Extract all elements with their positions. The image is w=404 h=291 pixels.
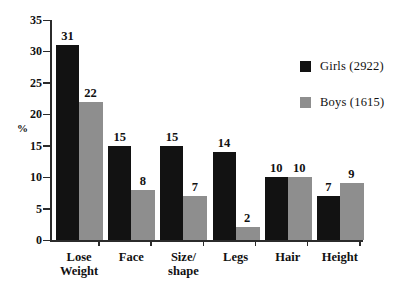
category-label-line1: Size/ [171,250,196,264]
y-axis-tick [43,20,51,22]
bar-value-label: 15 [105,131,135,144]
y-axis-title: % [17,122,28,134]
bar-value-label: 9 [336,168,366,181]
bar-value-label: 22 [76,87,106,100]
x-axis-line [50,240,363,242]
category-label-line2: Weight [39,264,119,278]
legend-item[interactable]: Boys (1615) [300,92,384,106]
bar-value-label: 8 [128,175,158,188]
x-axis-category-label: Height [300,250,380,264]
bar-value-label: 31 [53,30,83,43]
legend-item[interactable]: Girls (2922) [300,56,384,70]
bar-boys-1 [131,190,155,240]
legend-swatch-icon [300,97,311,108]
category-label-line1: Face [119,250,144,264]
bar-girls-0 [56,45,79,240]
bar-value-label: 10 [284,162,314,175]
y-axis-tick-label: 10 [0,171,42,183]
x-axis-tick [255,240,257,246]
y-axis-tick [43,145,51,147]
y-axis-tick-label: 30 [0,45,42,57]
y-axis-tick-label: 25 [0,77,42,89]
y-axis-tick [43,82,51,84]
x-axis-tick [307,240,309,246]
y-axis-tick [43,208,51,210]
category-label-line1: Height [322,250,358,264]
category-label-line2: shape [143,264,223,278]
x-axis-tick [150,240,152,246]
bar-boys-5 [340,183,364,240]
bar-boys-0 [79,102,103,240]
y-axis-tick [43,240,51,242]
y-axis-tick [43,177,51,179]
y-axis-tick-label: 20 [0,108,42,120]
bar-boys-2 [183,196,207,240]
x-axis-tick [98,240,100,246]
legend-swatch-icon [300,61,311,72]
y-axis-tick [43,114,51,116]
bar-chart: % 05101520253035 3122158157142101079 Los… [0,0,404,291]
chart-legend: Girls (2922)Boys (1615) [300,56,384,128]
bar-girls-1 [108,146,131,240]
x-axis-tick [203,240,205,246]
bar-value-label: 7 [180,181,210,194]
y-axis-tick-label: 15 [0,140,42,152]
category-label-line1: Hair [275,250,300,264]
legend-label: Boys (1615) [320,95,384,110]
category-label-line1: Lose [67,250,92,264]
bar-boys-3 [236,227,260,240]
bar-value-label: 15 [157,131,187,144]
y-axis-tick [43,51,51,53]
y-axis-tick-label: 0 [0,234,42,246]
bar-girls-4 [265,177,288,240]
legend-label: Girls (2922) [320,59,384,74]
y-axis-tick-label: 5 [0,203,42,215]
bar-value-label: 7 [313,181,343,194]
y-axis-tick-label: 35 [0,14,42,26]
category-label-line1: Legs [223,250,248,264]
x-axis-tick [359,240,361,246]
bar-girls-3 [213,152,236,240]
bar-boys-4 [288,177,312,240]
bar-value-label: 14 [209,137,239,150]
bar-girls-5 [317,196,340,240]
bar-value-label: 2 [232,212,262,225]
